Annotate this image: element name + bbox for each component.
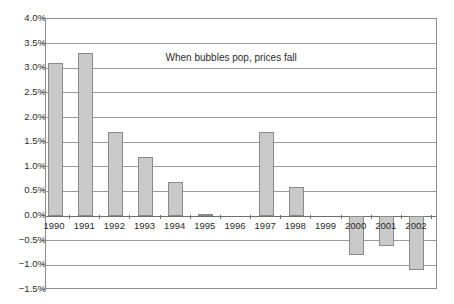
x-axis-tick-label: 1994 xyxy=(160,221,190,231)
y-axis-tick-label: 0.0% xyxy=(0,210,46,220)
chart-annotation: When bubbles pop, prices fall xyxy=(166,52,297,63)
y-axis-tick-label: 3.5% xyxy=(0,38,46,48)
y-axis-tick-label: −0.5% xyxy=(0,235,46,245)
bar xyxy=(289,187,304,217)
x-axis-tick-label: 1998 xyxy=(280,221,310,231)
y-axis-tick-label: 1.5% xyxy=(0,136,46,146)
y-axis-tick-label: 1.0% xyxy=(0,161,46,171)
y-axis-tick-label: 2.5% xyxy=(0,87,46,97)
x-axis-tick xyxy=(431,215,432,219)
x-axis-tick xyxy=(129,215,130,219)
x-axis-tick xyxy=(371,215,372,219)
x-axis-tick-label: 2000 xyxy=(341,221,371,231)
x-axis-tick-label: 1996 xyxy=(220,221,250,231)
y-axis-tick-label: 3.0% xyxy=(0,62,46,72)
y-axis-tick-label: −1.0% xyxy=(0,259,46,269)
x-axis-tick xyxy=(190,215,191,219)
x-axis-tick xyxy=(160,215,161,219)
bar-chart: 4.0%3.5%3.0%2.5%2.0%1.5%1.0%0.5%0.0%−0.5… xyxy=(0,0,454,304)
x-axis-tick xyxy=(401,215,402,219)
bar xyxy=(48,63,63,216)
x-axis-tick-label: 1993 xyxy=(129,221,159,231)
x-axis-tick xyxy=(310,215,311,219)
x-axis-tick-label: 2001 xyxy=(371,221,401,231)
y-axis-tick-label: 4.0% xyxy=(0,13,46,23)
x-axis-tick xyxy=(341,215,342,219)
y-axis-tick-label: 2.0% xyxy=(0,112,46,122)
x-axis-tick-label: 1997 xyxy=(250,221,280,231)
x-axis-tick xyxy=(220,215,221,219)
x-axis-tick xyxy=(99,215,100,219)
bar xyxy=(138,157,153,216)
bar xyxy=(108,132,123,216)
y-axis-tick-label: −1.5% xyxy=(0,284,46,294)
bar xyxy=(259,132,274,216)
bar xyxy=(78,53,93,216)
x-axis-tick-label: 1991 xyxy=(69,221,99,231)
x-axis-tick xyxy=(250,215,251,219)
x-axis-tick-label: 1999 xyxy=(310,221,340,231)
y-axis-tick xyxy=(41,289,45,290)
x-axis-tick-label: 2002 xyxy=(401,221,431,231)
plot-area: When bubbles pop, prices fall xyxy=(45,18,437,289)
bar xyxy=(168,182,183,216)
y-axis-tick-label: 0.5% xyxy=(0,185,46,195)
x-axis-tick-label: 1992 xyxy=(99,221,129,231)
x-axis-tick-label: 1990 xyxy=(39,221,69,231)
x-axis-tick xyxy=(69,215,70,219)
x-axis-tick-label: 1995 xyxy=(190,221,220,231)
x-axis-tick xyxy=(280,215,281,219)
bar xyxy=(198,214,213,216)
